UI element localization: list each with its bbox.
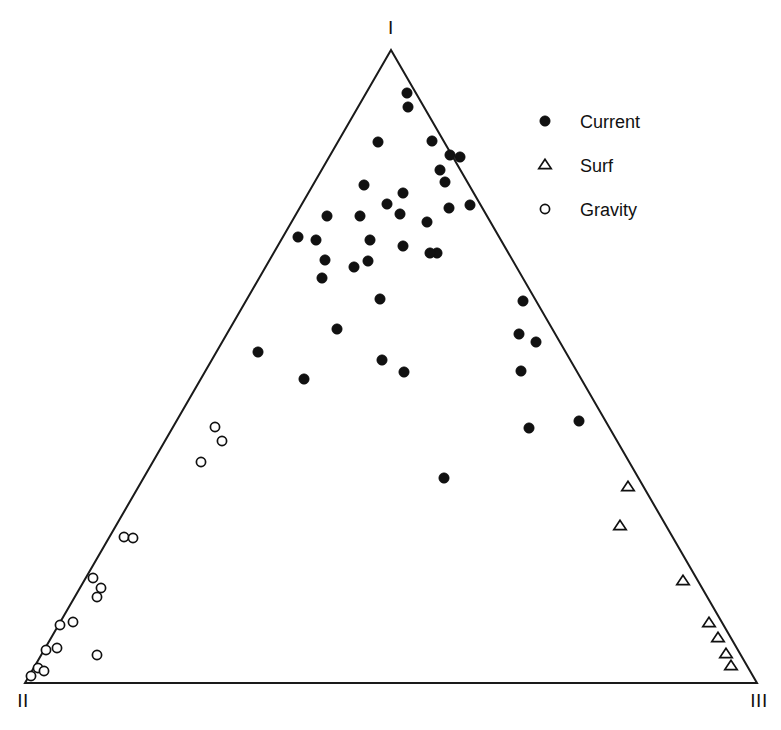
data-point-current — [425, 248, 435, 258]
data-point-current — [435, 165, 445, 175]
data-point-surf — [725, 660, 737, 669]
data-point-gravity — [92, 592, 101, 601]
ternary-plot-canvas: IIIIII CurrentSurfGravity — [0, 0, 781, 730]
data-point-current — [518, 296, 528, 306]
data-point-current — [422, 217, 432, 227]
data-point-current — [359, 180, 369, 190]
legend-label-current: Current — [580, 112, 640, 132]
data-point-gravity — [55, 620, 64, 629]
data-point-current — [317, 273, 327, 283]
data-point-current — [355, 211, 365, 221]
data-point-current — [349, 262, 359, 272]
data-point-current — [444, 203, 454, 213]
data-point-gravity — [39, 666, 48, 675]
ternary-diagram-figure: IIIIII CurrentSurfGravity — [0, 0, 781, 730]
legend-label-surf: Surf — [580, 156, 614, 176]
data-point-current — [311, 235, 321, 245]
data-point-current — [402, 88, 412, 98]
data-point-surf — [614, 520, 626, 529]
series-current-points — [253, 88, 584, 483]
data-point-current — [293, 232, 303, 242]
data-point-gravity — [196, 457, 205, 466]
data-point-gravity — [128, 533, 137, 542]
data-point-surf — [712, 632, 724, 641]
data-point-gravity — [88, 573, 97, 582]
vertex-label-group: IIIIII — [17, 17, 767, 711]
data-point-current — [574, 416, 584, 426]
data-point-current — [514, 329, 524, 339]
legend-marker-open-circle — [540, 204, 549, 213]
data-point-current — [403, 102, 413, 112]
data-point-current — [516, 366, 526, 376]
legend-item-surf: Surf — [539, 156, 614, 176]
data-point-gravity — [210, 422, 219, 431]
data-point-gravity — [92, 650, 101, 659]
data-point-surf — [720, 648, 732, 657]
series-gravity-points — [26, 422, 226, 680]
series-surf-points — [614, 481, 737, 669]
data-point-surf — [622, 481, 634, 490]
data-point-current — [440, 177, 450, 187]
data-point-gravity — [41, 645, 50, 654]
vertex-label-ii: II — [17, 690, 29, 711]
data-point-current — [373, 137, 383, 147]
data-point-current — [395, 209, 405, 219]
data-point-current — [524, 423, 534, 433]
data-point-current — [377, 355, 387, 365]
data-point-gravity — [217, 436, 226, 445]
data-point-gravity — [96, 583, 105, 592]
data-point-current — [455, 152, 465, 162]
data-point-current — [445, 150, 455, 160]
data-point-current — [398, 241, 408, 251]
data-point-current — [399, 367, 409, 377]
data-point-current — [398, 188, 408, 198]
data-point-current — [465, 200, 475, 210]
data-point-current — [253, 347, 263, 357]
legend-marker-open-triangle — [539, 159, 551, 168]
ternary-triangle-outline — [25, 50, 757, 683]
data-point-current — [363, 256, 373, 266]
vertex-label-iii: III — [750, 690, 767, 711]
data-point-current — [365, 235, 375, 245]
legend-item-current: Current — [540, 112, 640, 132]
data-point-surf — [677, 575, 689, 584]
data-point-surf — [703, 617, 715, 626]
data-point-current — [531, 337, 541, 347]
legend-item-gravity: Gravity — [540, 200, 637, 220]
legend-label-gravity: Gravity — [580, 200, 637, 220]
data-point-gravity — [52, 643, 61, 652]
data-point-current — [427, 136, 437, 146]
data-point-gravity — [68, 617, 77, 626]
vertex-label-i: I — [388, 17, 394, 38]
data-point-current — [320, 255, 330, 265]
data-point-gravity — [119, 532, 128, 541]
legend-marker-filled-circle — [540, 116, 550, 126]
data-point-current — [299, 374, 309, 384]
data-point-current — [439, 473, 449, 483]
data-point-gravity — [26, 671, 35, 680]
data-point-current — [332, 324, 342, 334]
data-point-current — [375, 294, 385, 304]
legend: CurrentSurfGravity — [539, 112, 640, 220]
data-point-current — [322, 211, 332, 221]
data-point-current — [382, 199, 392, 209]
